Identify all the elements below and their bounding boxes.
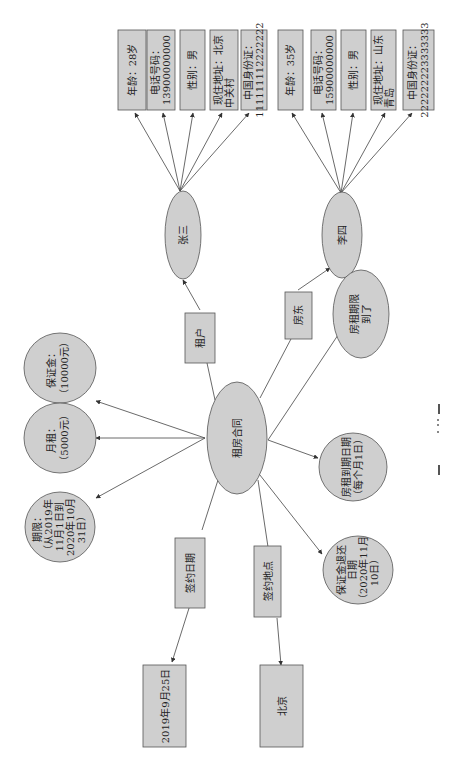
svg-text:租户: 租户 — [194, 328, 206, 348]
lisi-attributes: 年龄：35岁 电话号码： 15900000000 性别：男 现住地址：山东 青岛… — [278, 22, 434, 117]
svg-text:2020年10月: 2020年10月 — [64, 498, 76, 556]
svg-text:10日）: 10日） — [369, 554, 380, 587]
svg-text:中国身份证：: 中国身份证： — [242, 40, 254, 100]
svg-text:中国身份证：: 中国身份证： — [406, 40, 418, 100]
svg-text:保证金：: 保证金： — [45, 348, 57, 388]
svg-text:房租期限: 房租期限 — [348, 294, 360, 334]
relation-sign-date: 签约日期 — [175, 538, 205, 608]
svg-text:性别：男: 性别：男 — [347, 50, 359, 90]
contract-label: 租房合同 — [231, 418, 243, 458]
svg-text:现住地址：山东: 现住地址：山东 — [372, 35, 384, 105]
svg-text:日期: 日期 — [347, 560, 358, 580]
person-lisi: 李四 — [322, 192, 362, 278]
relation-landlord: 房东 — [285, 292, 312, 339]
svg-text:期限：: 期限： — [32, 512, 43, 542]
term-rent-due: 房租到期日期 （每个月1日） — [319, 433, 387, 501]
svg-text:222222223333333: 222222223333333 — [419, 22, 430, 117]
svg-text:张三: 张三 — [178, 225, 189, 245]
svg-text:签约日期: 签约日期 — [184, 553, 196, 593]
term-deposit: 保证金： （10000元） — [24, 333, 96, 403]
svg-text:2019年9月25日: 2019年9月25日 — [159, 669, 171, 744]
term-rent: 月租： （5000元） — [24, 403, 96, 473]
svg-text:月租：: 月租： — [45, 423, 57, 453]
term-lease-expire: 房租期限 到了 — [333, 270, 389, 358]
svg-text:中关村: 中关村 — [223, 78, 235, 108]
svg-text:现住地址：北京: 现住地址：北京 — [212, 35, 224, 105]
svg-text:（每个月1日）: （每个月1日） — [352, 434, 364, 500]
term-deposit-return: 保证金退还 日期 （2020年11月 10日） — [323, 536, 393, 604]
svg-text:签约地点: 签约地点 — [262, 561, 274, 601]
svg-text:31日）: 31日） — [76, 511, 87, 544]
svg-text:15900000000: 15900000000 — [324, 35, 335, 105]
figure-caption — [437, 404, 440, 475]
svg-text:年龄：28岁: 年龄：28岁 — [126, 44, 138, 97]
svg-text:房租到期日期: 房租到期日期 — [340, 437, 352, 497]
svg-text:（10000元）: （10000元） — [59, 337, 70, 399]
svg-text:年龄：35岁: 年龄：35岁 — [284, 44, 296, 97]
svg-text:保证金退还: 保证金退还 — [335, 545, 347, 595]
svg-text:111111112222222: 111111112222222 — [254, 22, 265, 117]
relation-tenant: 租户 — [185, 313, 215, 363]
svg-text:11月1日到: 11月1日到 — [54, 502, 65, 551]
relation-sign-place: 签约地点 — [254, 546, 281, 617]
value-place: 北京 — [260, 665, 303, 747]
svg-text:北京: 北京 — [276, 696, 288, 716]
svg-text:李四: 李四 — [336, 225, 348, 245]
svg-text:（5000元）: （5000元） — [59, 410, 70, 465]
value-date: 2019年9月25日 — [143, 665, 186, 747]
svg-text:（2020年11月: （2020年11月 — [357, 536, 369, 604]
person-zhangsan: 张三 — [165, 191, 201, 279]
zhangsan-attributes: 年龄：28岁 电话号码： 13900000000 性别：男 现住地址：北京 中关… — [118, 22, 267, 117]
svg-text:房东: 房东 — [292, 305, 304, 325]
term-period: 期限： （从2019年 11月1日到 2020年10月 31日） — [25, 492, 95, 562]
svg-text:（从2019年: （从2019年 — [42, 499, 54, 554]
svg-text:13900000000: 13900000000 — [161, 35, 172, 105]
svg-text:青岛: 青岛 — [383, 88, 395, 108]
svg-text:电话号码：: 电话号码： — [149, 45, 161, 95]
svg-text:电话号码：: 电话号码： — [312, 45, 324, 95]
contract-node: 租房合同 — [207, 382, 267, 494]
rental-contract-diagram: 租房合同 租户 房东 签约日期 签约地点 2019年9月25日 北京 张三 李四… — [0, 0, 458, 757]
svg-text:性别：男: 性别：男 — [186, 50, 198, 90]
svg-text:到了: 到了 — [361, 304, 372, 324]
